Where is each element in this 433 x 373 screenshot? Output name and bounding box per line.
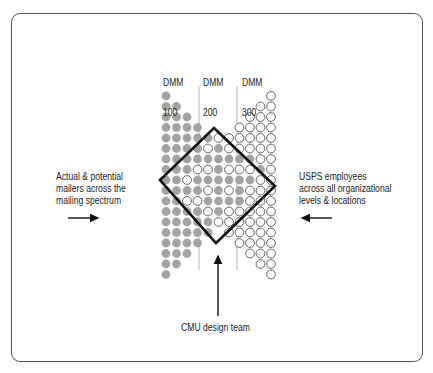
column-label-dmm-300: DMM 300 [242,58,262,128]
mailer-circle [183,249,192,258]
mailer-circle [172,239,181,248]
mailer-circle [172,228,181,237]
mailer-circle [172,260,181,269]
employee-circle [267,239,276,248]
employee-circle [204,165,213,174]
employee-circle [256,260,265,269]
mailer-circle [193,186,202,195]
mailer-circle [204,218,213,227]
employee-circle [256,239,265,248]
mailer-circle [193,228,202,237]
mailer-circle [162,218,171,227]
mailer-circle [162,134,171,143]
column-label-dmm-200: DMM 200 [203,58,223,128]
mailer-circle [183,113,192,122]
mailer-circle [235,186,244,195]
employee-circle [235,228,244,237]
employee-circle [183,197,192,206]
employee-circle [225,186,234,195]
mailer-circle [172,134,181,143]
mailer-circle [162,155,171,164]
mailer-circle [162,228,171,237]
employee-circle [246,186,255,195]
label-line-2: 300 [242,108,262,118]
mailer-circle [193,207,202,216]
mailer-circle [204,155,213,164]
employee-circle [256,134,265,143]
mailer-circle [183,218,192,227]
employee-circle [267,270,276,279]
mailer-circle [225,176,234,185]
mailer-circle [214,165,223,174]
mailer-circle [162,249,171,258]
employee-circle [204,207,213,216]
employee-circle [225,165,234,174]
mailer-circle [172,144,181,153]
mailer-circle [214,207,223,216]
employee-circle [256,155,265,164]
employee-circle [256,144,265,153]
employee-circle [267,155,276,164]
employee-circle [214,218,223,227]
mailer-circle [214,186,223,195]
employee-circle [235,134,244,143]
employee-circle [267,197,276,206]
employee-circle [256,207,265,216]
employee-circle [235,165,244,174]
employee-circle [246,239,255,248]
mailer-circle [183,228,192,237]
mailer-circle [225,197,234,206]
employee-circle [267,228,276,237]
mailer-circle [246,176,255,185]
employee-circle [267,218,276,227]
mailer-circle [214,176,223,185]
mailer-circle [193,155,202,164]
employee-circle [246,249,255,258]
employee-circle [225,218,234,227]
mailer-circle [172,207,181,216]
cmu-design-team-label: CMU design team [181,321,250,333]
employee-circle [256,218,265,227]
mailer-circle [183,165,192,174]
label-line-1: DMM [203,78,223,88]
mailer-circle [235,197,244,206]
employee-circle [267,113,276,122]
employee-circle [235,239,244,248]
employee-circle [267,144,276,153]
mailer-circle [235,176,244,185]
employee-circle [246,134,255,143]
employee-circle [267,92,276,101]
mailer-circle [204,176,213,185]
mailer-circle [193,239,202,248]
usps-employees-label: USPS employees across all organizational… [299,170,391,206]
mailer-circle [162,197,171,206]
employee-circle [267,134,276,143]
mailer-circle [204,197,213,206]
mailer-circle [214,144,223,153]
column-label-dmm-100: DMM 100 [163,58,183,128]
mailer-circle [225,155,234,164]
mailer-circle [172,249,181,258]
mailer-circle [214,197,223,206]
employee-circle [267,165,276,174]
employee-circle [267,123,276,132]
mailer-circle [162,207,171,216]
employee-circle [235,207,244,216]
employee-circle [246,218,255,227]
mailer-circle [172,218,181,227]
mailer-circle [183,186,192,195]
employee-circle [183,176,192,185]
mailer-circle [162,239,171,248]
employee-circle [267,207,276,216]
employee-circle [204,144,213,153]
employee-circle [267,102,276,111]
mailer-circle [172,176,181,185]
employee-circle [256,228,265,237]
mailer-circle [162,144,171,153]
label-line-2: 200 [203,108,223,118]
employee-circle [225,207,234,216]
mailer-circle [162,270,171,279]
mailer-circle [183,123,192,132]
mailer-circle [193,123,202,132]
mailer-circle [183,239,192,248]
